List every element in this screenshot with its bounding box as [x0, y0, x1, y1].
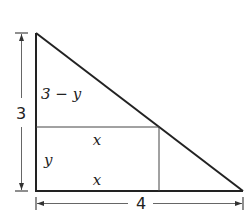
upper-segment-label: 3 − y	[41, 85, 82, 103]
rectangle-bottom-width-label: x	[93, 171, 102, 189]
triangle-diagram: 3 4 3 − y x y x	[0, 0, 250, 214]
right-triangle	[35, 33, 243, 191]
height-dimension: 3	[15, 33, 28, 191]
base-dimension: 4	[36, 194, 243, 213]
height-label: 3	[16, 104, 26, 123]
rectangle-top-width-label: x	[93, 131, 102, 149]
base-label: 4	[136, 194, 146, 213]
triangle-hypotenuse	[36, 33, 243, 191]
rectangle-height-label: y	[43, 151, 53, 169]
